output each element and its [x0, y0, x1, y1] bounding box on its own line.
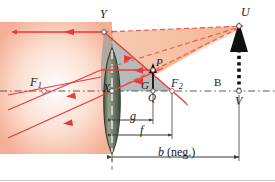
label-V: V [235, 95, 242, 107]
label-X: X [103, 82, 110, 94]
label-g: g [130, 110, 136, 122]
label-Q: Q [148, 92, 156, 103]
label-F1: F1 [30, 76, 42, 90]
label-b: b (neg.) [158, 146, 195, 158]
optics-diagram: Y U B V F1 F2 X P G Q g f b (neg.) [0, 0, 275, 182]
label-f: f [140, 124, 143, 136]
point-P [151, 68, 155, 72]
point-F1 [42, 89, 47, 94]
label-G: G [141, 80, 149, 91]
ray-diagram-canvas [0, 0, 275, 182]
virtual-ray-f2-ext [172, 91, 190, 107]
label-B: B [214, 77, 221, 88]
label-Y: Y [100, 8, 107, 20]
label-P: P [156, 57, 163, 68]
label-U: U [241, 6, 250, 18]
point-Y [102, 30, 107, 35]
point-U [237, 24, 242, 29]
label-F2: F2 [171, 77, 183, 91]
point-V [237, 89, 242, 94]
